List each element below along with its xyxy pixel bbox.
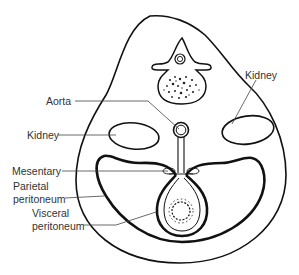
mesentery-stalk — [178, 137, 184, 173]
leader-kidney-right — [232, 80, 256, 124]
label-kidney-left: Kidney — [27, 129, 59, 141]
vertebra — [152, 38, 211, 104]
kidney-right — [220, 113, 275, 148]
gut-lumen — [172, 202, 190, 220]
label-visceral-1: Visceral — [32, 207, 69, 219]
label-kidney-right: Kidney — [245, 69, 277, 81]
kidney-left — [108, 120, 160, 151]
label-mesentary: Mesentary — [12, 165, 61, 177]
parietal-peritoneum — [97, 156, 265, 242]
label-parietal-2: peritoneum — [13, 193, 66, 205]
label-visceral-2: peritoneum — [32, 220, 85, 232]
label-aorta: Aorta — [46, 95, 71, 107]
label-parietal-1: Parietal — [13, 180, 49, 192]
bone-texture — [163, 76, 199, 99]
aorta — [174, 123, 189, 138]
body-wall-outline — [76, 16, 286, 263]
leader-parietal — [65, 196, 104, 198]
gut-wall — [164, 178, 200, 231]
spinal-canal — [175, 54, 185, 64]
